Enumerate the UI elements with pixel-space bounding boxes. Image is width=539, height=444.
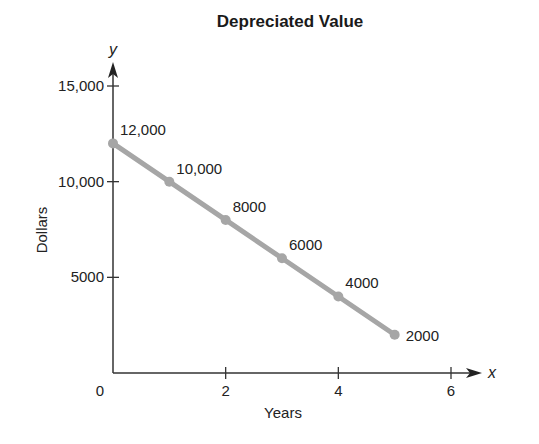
chart-title: Depreciated Value [217, 12, 363, 31]
data-point [108, 138, 118, 148]
data-point [164, 177, 174, 187]
x-tick-label: 4 [334, 382, 342, 399]
data-label: 6000 [289, 236, 322, 253]
x-tick-label: 0 [96, 382, 104, 399]
x-tick-label: 6 [447, 382, 455, 399]
data-label: 12,000 [120, 121, 166, 138]
y-axis: y [108, 41, 118, 373]
data-point [333, 291, 343, 301]
y-tick-label: 15,000 [58, 77, 104, 94]
data-point [277, 253, 287, 263]
data-label: 8000 [233, 198, 266, 215]
y-ticks: 500010,00015,000 [58, 77, 119, 285]
y-tick-label: 10,000 [58, 173, 104, 190]
line-chart: Depreciated Value y x 0246 500010,00015,… [0, 0, 539, 444]
data-point [221, 215, 231, 225]
data-point [390, 330, 400, 340]
x-axis-variable: x [487, 364, 497, 381]
data-label: 2000 [406, 327, 439, 344]
y-tick-label: 5000 [71, 268, 104, 285]
data-label: 4000 [345, 274, 378, 291]
series-line [113, 143, 395, 334]
y-axis-title: Dollars [33, 207, 50, 254]
x-axis-title: Years [264, 404, 302, 421]
data-series: 12,00010,0008000600040002000 [108, 121, 439, 343]
y-axis-variable: y [108, 41, 118, 58]
data-label: 10,000 [176, 160, 222, 177]
x-ticks: 0246 [96, 367, 455, 399]
x-tick-label: 2 [221, 382, 229, 399]
x-axis: x [113, 364, 497, 381]
